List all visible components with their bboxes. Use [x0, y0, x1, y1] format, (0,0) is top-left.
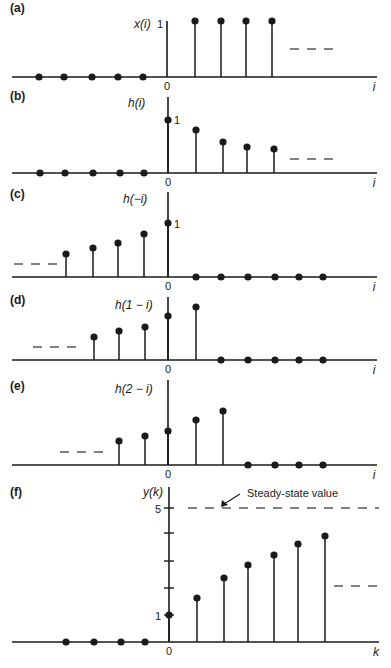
zero-sample-dot — [88, 73, 95, 80]
arrowhead-icon — [221, 500, 228, 507]
stem-dot — [140, 230, 147, 237]
y-axis-label: h(1 − i) — [115, 298, 153, 312]
zero-sample-dot — [319, 461, 326, 468]
stem-dot — [164, 312, 171, 319]
tick-label-one: 1 — [174, 218, 180, 230]
steady-state-annotation: Steady-state value — [247, 487, 338, 499]
origin-label: 0 — [166, 645, 172, 657]
zero-sample-dot — [140, 169, 147, 176]
stem-dot — [164, 219, 171, 226]
zero-sample-dot — [217, 356, 224, 363]
y-axis-label: h(i) — [128, 96, 145, 110]
stem-dot — [220, 574, 227, 581]
y-axis-label: h(2 − i) — [115, 382, 153, 396]
panel-label: (f) — [10, 485, 22, 499]
zero-sample-dot — [36, 169, 43, 176]
origin-label: 0 — [165, 176, 171, 188]
stem-dot — [141, 432, 148, 439]
zero-sample-dot — [35, 73, 42, 80]
stem-dot — [164, 116, 171, 123]
y-axis-label: y(k) — [142, 485, 163, 499]
stem-dot — [164, 427, 171, 434]
x-axis-name: i — [373, 80, 376, 94]
stem-dot — [244, 561, 251, 568]
panel-label: (b) — [10, 89, 25, 103]
annotation-arrow — [224, 494, 240, 504]
zero-sample-dot — [139, 73, 146, 80]
zero-sample-dot — [271, 273, 278, 280]
zero-sample-dot — [61, 169, 68, 176]
zero-sample-dot — [90, 638, 97, 645]
stem-dot — [219, 407, 226, 414]
panel-f: (f)y(k)150kSteady-state value — [10, 485, 380, 659]
x-axis-name: k — [373, 645, 380, 659]
stem-dot — [321, 532, 328, 539]
stem-dot — [294, 540, 301, 547]
panel-label: (d) — [10, 293, 25, 307]
origin-label: 0 — [165, 363, 171, 375]
stem-dot — [114, 239, 121, 246]
x-axis-name: i — [373, 280, 376, 294]
stem-dot — [192, 416, 199, 423]
panel-a: (a)x(i)10i — [10, 1, 377, 94]
stem-dot — [270, 145, 277, 152]
stem-dot — [270, 551, 277, 558]
panel-label: (e) — [10, 379, 25, 393]
panel-b: (b)h(i)10i — [10, 89, 377, 190]
zero-sample-dot — [319, 356, 326, 363]
zero-sample-dot — [60, 73, 67, 80]
x-axis-name: i — [373, 363, 376, 377]
stem-dot — [89, 244, 96, 251]
tick-label-one: 1 — [174, 114, 180, 126]
stem-dot — [242, 17, 249, 24]
zero-sample-dot — [114, 73, 121, 80]
x-axis-name: i — [373, 176, 376, 190]
stem-dot — [141, 323, 148, 330]
y-axis-label: h(−i) — [123, 192, 147, 206]
zero-sample-dot — [244, 461, 251, 468]
zero-sample-dot — [244, 356, 251, 363]
stem-dot — [193, 594, 200, 601]
stem-dot — [217, 17, 224, 24]
origin-label: 0 — [165, 280, 171, 292]
panel-label: (c) — [10, 187, 25, 201]
zero-sample-dot — [217, 273, 224, 280]
zero-sample-dot — [141, 638, 148, 645]
tick-label-one: 1 — [157, 18, 163, 30]
panel-c: (c)h(−i)10i — [10, 187, 377, 294]
stem-dot — [191, 17, 198, 24]
stem-dot — [192, 303, 199, 310]
panel-e: (e)h(2 − i)0i — [10, 379, 377, 482]
zero-sample-dot — [271, 356, 278, 363]
stem-dot — [268, 17, 275, 24]
zero-sample-dot — [271, 461, 278, 468]
zero-sample-dot — [89, 169, 96, 176]
convolution-figure: (a)x(i)10i(b)h(i)10i(c)h(−i)10i(d)h(1 − … — [0, 0, 391, 668]
zero-sample-dot — [192, 273, 199, 280]
origin-label: 0 — [164, 80, 170, 92]
zero-sample-dot — [295, 461, 302, 468]
stem-dot — [62, 250, 69, 257]
zero-sample-dot — [295, 356, 302, 363]
stem-dot — [192, 126, 199, 133]
stem-dot — [115, 327, 122, 334]
stem-dot — [165, 611, 172, 618]
zero-sample-dot — [116, 169, 123, 176]
stem-dot — [243, 143, 250, 150]
origin-label: 0 — [165, 468, 171, 480]
x-axis-name: i — [373, 468, 376, 482]
zero-sample-dot — [319, 273, 326, 280]
tick-label-five: 5 — [155, 503, 161, 515]
panel-d: (d)h(1 − i)0i — [10, 293, 377, 377]
stem-dot — [219, 138, 226, 145]
zero-sample-dot — [62, 638, 69, 645]
zero-sample-dot — [244, 273, 251, 280]
y-axis-label: x(i) — [133, 17, 151, 31]
stem-dot — [115, 437, 122, 444]
zero-sample-dot — [295, 273, 302, 280]
zero-sample-dot — [117, 638, 124, 645]
tick-label-one: 1 — [155, 610, 161, 622]
stem-dot — [90, 333, 97, 340]
panel-label: (a) — [10, 1, 25, 15]
